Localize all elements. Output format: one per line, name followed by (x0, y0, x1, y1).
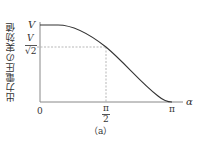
x-tick-half-num: π (103, 104, 109, 113)
x-axis-label: α (186, 97, 193, 107)
figure-caption: （a） (89, 127, 112, 136)
y-tick-v: V (28, 20, 35, 30)
x-tick-half-den: 2 (103, 115, 109, 124)
x-tick-pi: π (169, 105, 175, 114)
y-axis-label: 出力電圧の実効値 (6, 22, 18, 102)
y-tick-v-num: V (27, 34, 34, 43)
x-tick-zero: 0 (37, 107, 43, 116)
y-tick-sqrt2: √2 (25, 47, 36, 56)
